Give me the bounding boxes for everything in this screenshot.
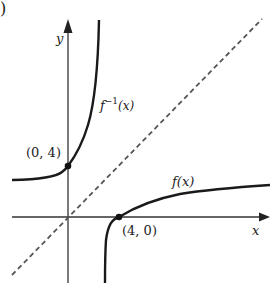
point-label-0-4: (0, 4)	[26, 145, 61, 160]
function-inverse-diagram: ) x y (0, 4) (4, 0) f−1(x) f(x)	[0, 0, 273, 283]
y-axis-label: y	[55, 31, 64, 46]
function-curve-label: f(x)	[171, 174, 194, 189]
inverse-curve-upper	[68, 20, 99, 166]
function-curve-right	[119, 185, 270, 217]
x-axis-arrow-icon	[259, 213, 270, 222]
panel-marker: )	[0, 0, 6, 18]
inverse-curve-left	[12, 166, 68, 180]
point-0-4	[65, 163, 72, 170]
y-axis-arrow-icon	[64, 19, 73, 33]
inverse-label-sup: −1	[105, 96, 118, 106]
inverse-label-arg: (x)	[118, 99, 134, 113]
inverse-curve-label: f−1(x)	[99, 96, 135, 113]
point-label-4-0: (4, 0)	[122, 223, 157, 238]
function-curve-lower	[105, 217, 119, 283]
point-4-0	[116, 214, 123, 221]
x-axis-label: x	[252, 223, 260, 238]
